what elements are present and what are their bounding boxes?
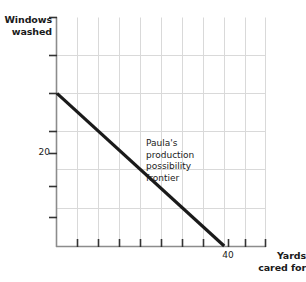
ppf-chart-figure: Windows washed Yards cared for 20 40 Pau… [0,0,306,282]
x-axis-title: Yards cared for [255,250,306,273]
x-axis-tick-label-40: 40 [213,250,243,260]
y-axis-tick-label-20: 20 [26,147,50,157]
ppf-annotation-label: Paula's production possibility frontier [146,138,216,184]
y-axis-title: Windows washed [0,14,52,37]
